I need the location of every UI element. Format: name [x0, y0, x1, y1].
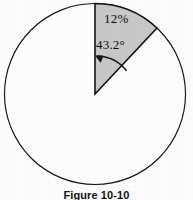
figure-container: 12% 43.2° Figure 10-10: [0, 0, 193, 200]
slice-angle-label: 43.2°: [96, 37, 125, 53]
figure-caption: Figure 10-10: [0, 189, 193, 200]
pie-chart-graphic: [0, 0, 193, 200]
slice-percent-label: 12%: [104, 11, 128, 27]
